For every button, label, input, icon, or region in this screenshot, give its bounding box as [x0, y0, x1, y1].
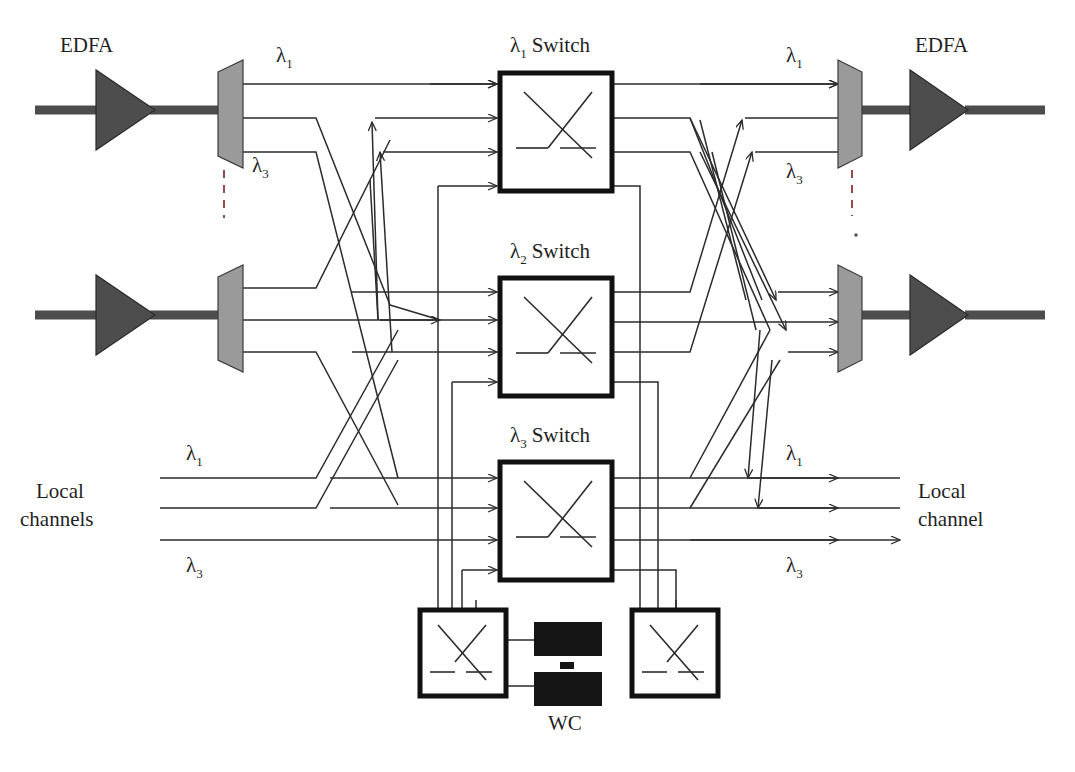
wc-ellipsis-dot-1	[560, 662, 574, 669]
path-x-right-4	[712, 152, 756, 330]
label-local-channel-out-1: Local	[918, 479, 966, 503]
edfa-in-mid	[96, 275, 155, 355]
path-sw3-out4	[613, 570, 676, 610]
label-lambda1-local-out: λ1	[786, 441, 803, 469]
switch-box-group	[500, 73, 612, 580]
label-lambda1-out-top: λ1	[786, 43, 803, 71]
wc-block-1	[534, 622, 602, 656]
label-wc: WC	[548, 711, 582, 735]
wc-input-switch[interactable]	[420, 610, 506, 696]
label-lambda2-switch: λ2Switch	[510, 239, 591, 267]
demux-top	[218, 60, 243, 168]
label-lambda3-switch: λ3Switch	[510, 423, 591, 451]
label-edfa-right: EDFA	[915, 33, 969, 57]
mux-top	[838, 60, 862, 168]
edfa-in-top	[96, 70, 155, 150]
path-f1-l2-to-sw2	[243, 118, 390, 305]
dot-mux-top	[854, 233, 858, 237]
path-x-right-1	[690, 118, 776, 300]
label-local-channels-in-1: Local	[36, 479, 84, 503]
path-drop-x1	[748, 330, 760, 478]
edfa-out-top	[910, 70, 968, 150]
label-lambda3-local-in: λ3	[186, 553, 203, 581]
path-f2-l1-out	[243, 140, 390, 288]
lambda3-switch-box[interactable]	[500, 462, 612, 580]
label-local-channels-in-2: channels	[20, 507, 93, 531]
wc-ellipsis-dot-2	[560, 676, 574, 683]
label-lambda3-in-top: λ3	[252, 153, 269, 181]
label-lambda1-switch: λ1Switch	[510, 33, 591, 61]
label-lambda3-local-out: λ3	[786, 553, 803, 581]
path-local-add-2	[160, 360, 398, 508]
diagram-canvas: EDFA EDFA λ1 λ3 λ1 λ3 λ1 λ3 λ1 λ3 Local …	[0, 0, 1075, 772]
path-diag-up-b	[380, 152, 392, 352]
path-f2-l3-out	[243, 352, 398, 505]
path-f1-l2-seg	[390, 305, 440, 320]
path-x-right-3	[700, 120, 746, 300]
demux-mid	[218, 265, 243, 372]
label-lambda1-local-in: λ1	[186, 441, 203, 469]
lambda2-switch-box[interactable]	[500, 278, 612, 396]
optical-crossconnect-diagram: EDFA EDFA λ1 λ3 λ1 λ3 λ1 λ3 λ1 λ3 Local …	[0, 0, 1075, 772]
label-edfa-left: EDFA	[60, 33, 114, 57]
wc-output-switch[interactable]	[632, 610, 718, 696]
label-local-channel-out-2: channel	[918, 507, 983, 531]
path-drop-2	[690, 360, 780, 508]
wavelength-converter-section	[420, 610, 718, 706]
label-lambda3-out-top: λ3	[786, 159, 803, 187]
label-lambda1-in-top: λ1	[276, 43, 293, 71]
lambda1-switch-box[interactable]	[500, 73, 612, 191]
edfa-out-mid	[910, 275, 968, 355]
path-drop-x2	[758, 360, 772, 508]
path-sw1-out3	[613, 152, 770, 330]
path-sw2-out4	[613, 382, 658, 600]
path-sw1-out4	[613, 186, 640, 600]
mux-mid	[838, 265, 862, 372]
